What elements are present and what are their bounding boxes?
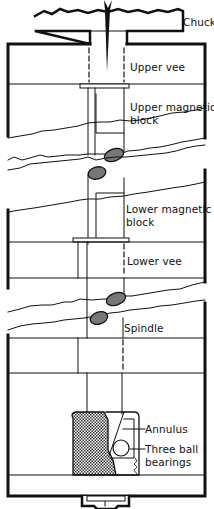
hatched-body (72, 412, 116, 475)
lower-housing (8, 300, 205, 509)
shaded-joint-1 (103, 146, 126, 164)
ball-bearing (113, 440, 129, 456)
label-upper-vee: Upper vee (130, 61, 185, 73)
middle-housing (8, 145, 205, 318)
label-spindle: Spindle (124, 322, 164, 334)
label-annulus: Annulus (145, 423, 188, 435)
label-lower-magnetic-block-line2: block (126, 216, 154, 228)
shaded-joint-4 (88, 309, 109, 326)
label-upper-magnetic-block-line2: block (130, 114, 158, 126)
label-three-ball-bearings-line1: Three ball (145, 443, 198, 455)
label-lower-magnetic-block-line1: Lower magnetic (126, 203, 211, 215)
label-chuck: Chuck (183, 16, 214, 28)
shaded-joint-2 (87, 165, 107, 181)
label-lower-vee: Lower vee (127, 255, 182, 267)
label-three-ball-bearings-line2: bearings (145, 456, 191, 468)
label-upper-magnetic-block-line1: Upper magnetic (130, 101, 214, 113)
